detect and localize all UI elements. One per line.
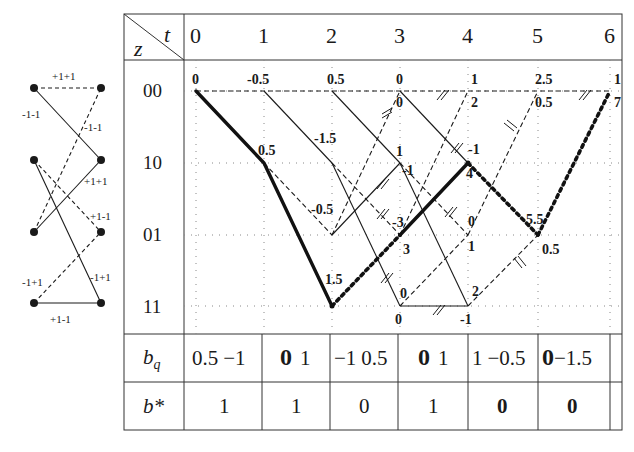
bstar-label: b* [143, 394, 165, 418]
node-left-01 [30, 228, 38, 236]
metric: 0 [192, 72, 199, 87]
edge-label: +1-1 [90, 210, 111, 222]
metric: -1 [402, 163, 414, 178]
bq-cell-4: 01 [418, 344, 449, 370]
metric: 0 [396, 72, 403, 87]
path-metrics: 0 -0.5 0.5 0 0 1 2 2.5 0.5 1 7 0.5 -1.5 … [192, 72, 621, 327]
corner-label-t: t [164, 22, 171, 47]
bq-cell-1: 0.5−1 [192, 346, 246, 370]
metric: 0 [395, 312, 402, 327]
edge-label: +1+1 [52, 70, 75, 82]
metric: 1 [614, 72, 621, 87]
node-left-00 [30, 84, 38, 92]
node-right-11 [97, 299, 105, 307]
node-right-00 [97, 84, 105, 92]
bstar-cell-4: 1 [428, 394, 439, 418]
metric: 2.5 [535, 72, 553, 87]
time-step-3: 3 [394, 23, 405, 48]
edge-label: -1+1 [22, 276, 43, 288]
edge-label: -1-1 [22, 108, 40, 120]
time-step-4: 4 [462, 23, 473, 48]
metric: -1 [460, 312, 472, 327]
bstar-cell-3: 0 [359, 394, 370, 418]
metric: 0.5 [258, 143, 276, 158]
node-right-10 [97, 156, 105, 164]
metric: 7 [614, 95, 621, 110]
bq-cell-2: 01 [280, 344, 311, 370]
metric: -0.5 [311, 202, 333, 217]
metric: 2 [472, 284, 479, 299]
state-labels: 00 10 01 11 [143, 80, 162, 317]
metric: -3 [392, 215, 404, 230]
bstar-cell-5: 0 [497, 394, 508, 418]
edge-label: -1-1 [84, 121, 102, 133]
bq-cell-3: −10.5 [334, 346, 388, 370]
metric: 4 [466, 166, 473, 181]
metric: 1 [471, 72, 478, 87]
state-label-00: 00 [143, 80, 162, 101]
time-step-0: 0 [190, 23, 201, 48]
edge-label: +1-1 [50, 313, 71, 325]
metric: 0 [400, 286, 407, 301]
state-label-11: 11 [143, 296, 161, 317]
bstar-cell-6: 0 [567, 394, 578, 418]
edge-label: +1+1 [84, 175, 107, 187]
edge-label: -1+1 [90, 271, 111, 283]
bq-cell-6: 0−1.5 [542, 344, 592, 370]
time-step-5: 5 [532, 23, 543, 48]
metric: 5.5 [526, 212, 544, 227]
node-left-11 [30, 299, 38, 307]
bq-row: bq 0.5−1 01 −10.5 01 1−0.5 0−1.5 [143, 344, 592, 372]
metric: 0 [396, 95, 403, 110]
metric: 0.5 [327, 72, 345, 87]
node-right-01 [97, 228, 105, 236]
trellis-figure: +1+1 -1-1 -1-1 +1+1 +1-1 -1+1 -1+1 +1-1 … [0, 0, 634, 452]
edge-11-01 [34, 232, 101, 303]
trellis-dashed-branches [196, 91, 610, 306]
corner-diagonal [124, 14, 184, 60]
metric: 0 [468, 214, 475, 229]
table-header: t z 0 1 2 3 4 5 6 [133, 22, 615, 61]
bstar-cell-2: 1 [291, 394, 302, 418]
time-step-2: 2 [326, 23, 337, 48]
bq-label: bq [143, 345, 161, 372]
metric: 1.5 [325, 272, 343, 287]
metric: 0.5 [535, 95, 553, 110]
bq-cell-5: 1−0.5 [472, 346, 526, 370]
metric: -1.5 [314, 131, 336, 146]
metric: 1 [396, 144, 403, 159]
metric: 2 [471, 95, 478, 110]
prune-marker [382, 108, 392, 118]
state-label-01: 01 [143, 224, 162, 245]
time-step-1: 1 [258, 23, 269, 48]
bstar-cell-1: 1 [219, 394, 230, 418]
prune-marker [504, 120, 517, 131]
state-label-10: 10 [143, 152, 162, 173]
metric: 3 [403, 242, 410, 257]
metric: -1 [468, 142, 480, 157]
survivor-path-dotted [332, 91, 610, 306]
corner-label-z: z [133, 36, 143, 61]
metric: -0.5 [247, 72, 269, 87]
bstar-row: b* 1 1 0 1 0 0 [143, 394, 578, 418]
node-left-10 [30, 156, 38, 164]
time-step-6: 6 [604, 23, 615, 48]
metric: 0.5 [542, 242, 560, 257]
metric: 1 [468, 239, 475, 254]
